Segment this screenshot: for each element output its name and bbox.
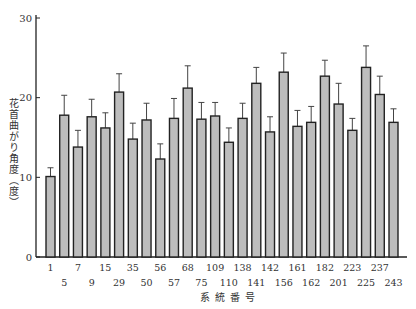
bar: [73, 147, 82, 257]
y-tick-label: 30: [19, 13, 32, 24]
x-tick-label: 75: [195, 277, 207, 288]
x-tick-label: 243: [384, 277, 402, 288]
bar: [115, 92, 124, 257]
bar: [252, 83, 261, 257]
x-tick-label: 56: [154, 262, 166, 273]
x-tick-label: 9: [89, 277, 95, 288]
bar: [87, 117, 96, 257]
x-tick-label: 110: [220, 277, 238, 288]
x-tick-label: 223: [343, 262, 361, 273]
bar: [46, 177, 55, 257]
bar: [224, 142, 233, 257]
bar: [348, 130, 357, 257]
bar: [211, 116, 220, 257]
bar: [101, 128, 110, 257]
bar: [183, 88, 192, 257]
y-tick-label: 20: [19, 92, 32, 103]
x-tick-label: 142: [261, 262, 279, 273]
bar: [293, 126, 302, 257]
x-tick-label: 68: [182, 262, 194, 273]
x-tick-label: 29: [113, 277, 125, 288]
x-tick-label: 237: [371, 262, 389, 273]
bar: [362, 67, 371, 257]
x-tick-label: 162: [302, 277, 320, 288]
x-tick-label: 161: [288, 262, 306, 273]
x-tick-label: 1: [47, 262, 53, 273]
y-axis-label: 花首曲がり角度（度）: [4, 98, 18, 208]
x-tick-label: 5: [61, 277, 67, 288]
bar: [375, 94, 384, 257]
bar: [156, 159, 165, 257]
x-tick-label: 50: [140, 277, 152, 288]
bar: [197, 119, 206, 257]
x-tick-label: 109: [206, 262, 224, 273]
x-tick-label: 15: [99, 262, 111, 273]
y-tick-label: 10: [19, 172, 32, 183]
y-tick-label: 0: [26, 252, 32, 263]
bar: [334, 104, 343, 257]
x-tick-label: 225: [357, 277, 375, 288]
bar: [142, 120, 151, 257]
bar: [60, 115, 69, 257]
bar: [169, 118, 178, 257]
bar: [279, 72, 288, 257]
bar: [266, 132, 275, 257]
x-tick-label: 57: [168, 277, 180, 288]
x-tick-label: 182: [316, 262, 334, 273]
x-axis-title: 系統番号: [200, 289, 260, 304]
x-tick-label: 7: [75, 262, 81, 273]
bar: [238, 118, 247, 257]
bar-chart: 0102030157915293550565768751091101381411…: [0, 0, 416, 309]
bar: [128, 139, 137, 257]
bar: [307, 122, 316, 257]
x-tick-label: 201: [330, 277, 348, 288]
x-tick-label: 156: [275, 277, 293, 288]
x-tick-label: 141: [247, 277, 265, 288]
bar: [320, 76, 329, 257]
x-tick-label: 35: [127, 262, 139, 273]
x-tick-label: 138: [234, 262, 252, 273]
bar: [389, 122, 398, 257]
